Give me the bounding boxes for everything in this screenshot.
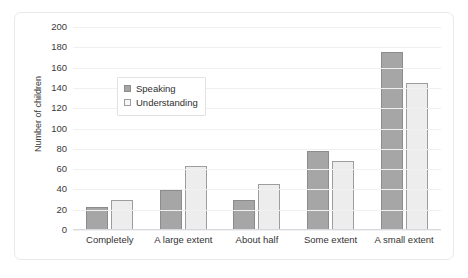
top-artifact-strip	[0, 0, 468, 10]
gridline	[73, 189, 441, 190]
x-axis-tick-row: CompletelyA large extentAbout halfSome e…	[73, 234, 441, 245]
x-axis-tick-label: A large extent	[147, 234, 221, 245]
y-axis-tick-label: 120	[33, 103, 67, 113]
gridline	[73, 27, 441, 28]
chart-plot-wrapper: Number of children 200180160140120100806…	[15, 13, 455, 261]
y-axis-tick-column: 200180160140120100806040200	[33, 13, 67, 261]
y-axis-tick-label: 40	[33, 185, 67, 195]
y-axis-tick-label: 20	[33, 205, 67, 215]
gridline	[73, 230, 441, 231]
gridline	[73, 47, 441, 48]
y-axis-tick-label: 160	[33, 63, 67, 73]
legend-swatch-speaking-icon	[124, 85, 131, 92]
legend-label-speaking: Speaking	[136, 82, 176, 96]
chart-frame: Number of children 200180160140120100806…	[14, 12, 454, 260]
x-axis-tick-label: About half	[220, 234, 294, 245]
x-axis-tick-label: A small extent	[367, 234, 441, 245]
y-axis-tick-label: 180	[33, 43, 67, 53]
gridline	[73, 169, 441, 170]
bottom-artifact-strip	[0, 264, 468, 278]
bar-understanding[interactable]	[111, 200, 133, 230]
gridline	[73, 149, 441, 150]
bar-understanding[interactable]	[185, 166, 207, 230]
legend-label-understanding: Understanding	[136, 96, 198, 110]
legend-swatch-understanding-icon	[124, 99, 131, 106]
bar-speaking[interactable]	[233, 200, 255, 230]
x-axis-tick-label: Completely	[73, 234, 147, 245]
bar-speaking[interactable]	[381, 52, 403, 230]
y-axis-tick-label: 200	[33, 22, 67, 32]
y-axis-tick-label: 60	[33, 164, 67, 174]
bar-speaking[interactable]	[307, 151, 329, 230]
bar-understanding[interactable]	[258, 184, 280, 230]
gridline	[73, 68, 441, 69]
plot-area	[73, 27, 441, 230]
legend-item-understanding: Understanding	[124, 96, 198, 110]
y-axis-tick-label: 100	[33, 124, 67, 134]
chart-legend: Speaking Understanding	[117, 77, 206, 116]
gridline	[73, 210, 441, 211]
x-axis-tick-label: Some extent	[294, 234, 368, 245]
bar-understanding[interactable]	[332, 161, 354, 230]
y-axis-tick-label: 140	[33, 83, 67, 93]
legend-item-speaking: Speaking	[124, 82, 198, 96]
y-axis-tick-label: 0	[33, 225, 67, 235]
bar-understanding[interactable]	[406, 83, 428, 230]
gridline	[73, 129, 441, 130]
y-axis-tick-label: 80	[33, 144, 67, 154]
